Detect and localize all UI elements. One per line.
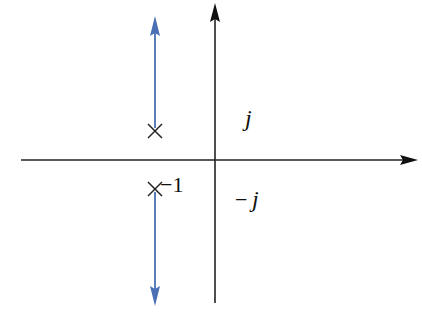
minus-j-sign: − [235,187,247,212]
lower-pole-label: −1 [160,172,183,197]
lower-branch [150,192,160,306]
imaginary-axis [210,3,220,303]
complex-plane-diagram: −1 j − j [0,0,422,312]
plus-j-label: j [242,105,252,131]
upper-branch [150,16,160,128]
real-axis [21,155,418,165]
lower-branch-arrowhead-icon [150,286,160,306]
minus-j-label: j [249,186,259,212]
upper-branch-arrowhead-icon [150,16,160,36]
